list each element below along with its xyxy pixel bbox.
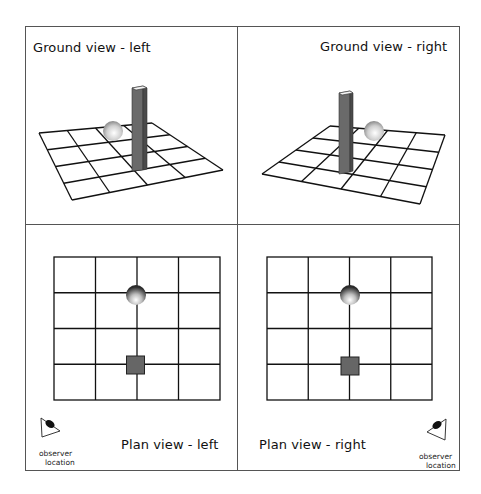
panel-frame (25, 26, 460, 471)
sphere-icon (340, 285, 360, 305)
plan-view-left (41, 257, 220, 437)
plan-grid (54, 257, 220, 400)
plan-view-right (267, 257, 446, 440)
eye-icon (427, 419, 446, 440)
sphere-icon (364, 121, 384, 141)
ground-right-title: Ground view - right (320, 39, 447, 54)
observer-label-left-1: observer (39, 449, 72, 458)
observer-label-right-1: observer (419, 452, 452, 461)
perspective-grid (262, 126, 445, 204)
sphere-icon (126, 285, 146, 305)
pillar-icon (132, 86, 147, 171)
perspective-grid (39, 123, 223, 200)
plan-left-title: Plan view - left (121, 437, 218, 452)
sphere-icon (103, 121, 123, 141)
eye-icon (41, 418, 60, 437)
observer-label-left-2: location (45, 458, 75, 467)
plan-grid (267, 257, 432, 400)
ground-left-title: Ground view - left (33, 40, 151, 55)
pillar-square-icon (341, 357, 359, 375)
ground-view-right (262, 91, 445, 204)
pillar-icon (339, 91, 353, 174)
pillar-square-icon (127, 356, 145, 374)
diagram: Ground view - left Ground view - right P… (0, 0, 481, 494)
plan-right-title: Plan view - right (259, 437, 366, 452)
ground-view-left (39, 86, 223, 200)
observer-label-right-2: location (426, 461, 456, 470)
